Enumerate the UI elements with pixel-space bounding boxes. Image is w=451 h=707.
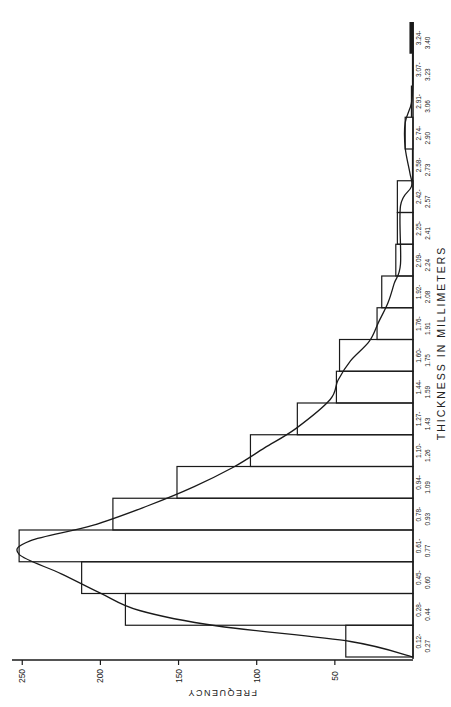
thickness-bin-label-end: 0.44 <box>424 608 431 621</box>
histogram-bar <box>377 308 413 340</box>
histogram-bar <box>19 530 413 562</box>
thickness-bin-label-start: 0.28- <box>415 602 422 617</box>
thickness-bin-label-start: 1.27- <box>415 411 422 426</box>
histogram-bar <box>125 594 413 626</box>
histogram-bar <box>113 498 413 530</box>
thickness-bin-label-start: 0.45- <box>415 570 422 585</box>
thickness-bin-label-start: 1.76- <box>415 316 422 331</box>
thickness-bin-label-end: 3.23 <box>424 68 431 81</box>
thickness-bin-label-start: 2.09- <box>415 253 422 268</box>
thickness-bin-label-start: 0.12- <box>415 634 422 649</box>
thickness-bin-label-start: 1.60- <box>415 348 422 363</box>
histogram-bar <box>177 467 413 499</box>
thickness-bin-label-start: 2.42- <box>415 189 422 204</box>
thickness-bin-label-end: 2.90 <box>424 131 431 144</box>
thickness-bin-label-start: 1.44- <box>415 380 422 395</box>
thickness-bin-label-start: 0.78- <box>415 507 422 522</box>
histogram-bars <box>19 22 413 657</box>
thickness-bin-label-end: 2.41 <box>424 227 431 240</box>
thickness-bin-label-end: 3.40 <box>424 36 431 49</box>
histogram-bar <box>340 340 413 372</box>
histogram-bar <box>405 117 413 149</box>
thickness-bin-label-start: 2.25- <box>415 221 422 236</box>
thickness-bin-label-start: 2.91- <box>415 94 422 109</box>
thickness-bin-label-end: 0.77 <box>424 544 431 557</box>
histogram-bar <box>396 244 413 276</box>
thickness-bin-label-end: 1.43 <box>424 417 431 430</box>
thickness-bin-label-start: 0.94- <box>415 475 422 490</box>
histogram-bar <box>250 435 413 467</box>
thickness-bin-label-end: 1.91 <box>424 322 431 335</box>
x-axis-title: THICKNESS IN MILLIMETERS <box>435 246 447 440</box>
thickness-bin-label-end: 0.93 <box>424 512 431 525</box>
thickness-bin-label-start: 0.61- <box>415 538 422 553</box>
thickness-bin-label-start: 1.92- <box>415 284 422 299</box>
thickness-bin-label-end: 3.06 <box>424 100 431 113</box>
thickness-bin-label-end: 2.73 <box>424 163 431 176</box>
thickness-bin-label-start: 1.10- <box>415 443 422 458</box>
frequency-tick-label: 100 <box>252 669 262 683</box>
thickness-bin-label-start: 2.58- <box>415 157 422 172</box>
thickness-bin-label-end: 2.57 <box>424 195 431 208</box>
y-axis-title: FREQUENCY <box>187 688 257 698</box>
thickness-bin-label-end: 1.75 <box>424 354 431 367</box>
frequency-tick-label: 50 <box>330 671 340 681</box>
thickness-bin-label-end: 0.60 <box>424 576 431 589</box>
histogram-chart: 50100150200250 0.12-0.270.28-0.440.45-0.… <box>0 0 451 707</box>
thickness-bin-label-end: 2.24 <box>424 258 431 271</box>
histogram-bar <box>336 371 413 403</box>
thickness-bin-label-start: 2.74- <box>415 126 422 141</box>
thickness-bin-label-start: 3.24- <box>415 30 422 45</box>
histogram-bar <box>82 562 413 594</box>
thickness-bin-label-end: 1.26 <box>424 449 431 462</box>
histogram-bar <box>346 625 413 657</box>
frequency-ticks: 50100150200250 <box>17 660 340 683</box>
thickness-bin-label-end: 0.27 <box>424 639 431 652</box>
thickness-bin-label-end: 2.08 <box>424 290 431 303</box>
thickness-bin-label-start: 3.07- <box>415 62 422 77</box>
histogram-bar <box>382 276 413 308</box>
frequency-tick-label: 200 <box>95 669 105 683</box>
frequency-tick-label: 150 <box>174 669 184 683</box>
frequency-tick-label: 250 <box>17 669 27 683</box>
thickness-bin-label-end: 1.59 <box>424 385 431 398</box>
thickness-tick-labels: 0.12-0.270.28-0.440.45-0.600.61-0.770.78… <box>415 30 431 652</box>
histogram-bar <box>297 403 413 435</box>
thickness-bin-label-end: 1.09 <box>424 481 431 494</box>
